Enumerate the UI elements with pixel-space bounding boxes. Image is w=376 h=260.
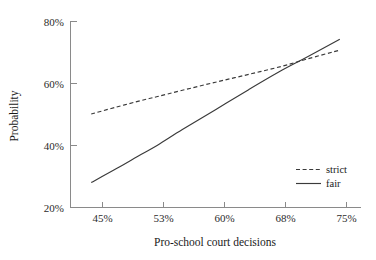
axis-spines <box>71 21 361 208</box>
line-chart: 80% 60% 40% 20% 45% 53% 60% 68% 75% <box>0 0 376 260</box>
x-axis-ticks <box>103 202 347 208</box>
y-axis-tick-labels: 80% 60% 40% 20% <box>44 16 64 214</box>
x-tick-label-60: 60% <box>214 212 234 224</box>
y-tick-label-80: 80% <box>44 16 64 28</box>
y-axis-title: Probability <box>8 90 21 141</box>
y-axis-ticks <box>71 22 77 208</box>
legend: strict fair <box>296 164 347 189</box>
y-tick-label-20: 20% <box>44 202 64 214</box>
chart-container: 80% 60% 40% 20% 45% 53% 60% 68% 75% <box>0 0 376 260</box>
y-tick-label-60: 60% <box>44 78 64 90</box>
legend-label-fair: fair <box>326 178 341 189</box>
x-tick-label-68: 68% <box>275 212 295 224</box>
x-tick-label-75: 75% <box>336 212 356 224</box>
x-axis-title: Pro-school court decisions <box>154 236 277 248</box>
legend-label-strict: strict <box>326 164 347 175</box>
series-group <box>91 39 340 182</box>
x-axis-tick-labels: 45% 53% 60% 68% 75% <box>92 212 356 224</box>
x-tick-label-45: 45% <box>92 212 112 224</box>
x-tick-label-53: 53% <box>153 212 173 224</box>
y-tick-label-40: 40% <box>44 140 64 152</box>
